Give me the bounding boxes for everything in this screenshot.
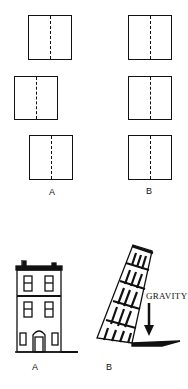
box-b1 bbox=[128, 15, 172, 60]
box-a2 bbox=[14, 76, 58, 120]
building-icon bbox=[10, 258, 80, 358]
fold-line bbox=[150, 16, 151, 59]
box-a1 bbox=[28, 15, 72, 60]
fold-line bbox=[36, 77, 37, 119]
label-a-bottom: A bbox=[32, 362, 38, 372]
fold-line bbox=[51, 136, 52, 179]
fold-line bbox=[150, 77, 151, 119]
fold-line bbox=[150, 136, 151, 179]
label-b-top: B bbox=[146, 186, 152, 196]
box-b3 bbox=[128, 135, 172, 180]
gravity-arrow-icon bbox=[142, 303, 156, 337]
gravity-label: GRAVITY bbox=[146, 291, 187, 301]
box-a3 bbox=[29, 135, 73, 180]
label-a-top: A bbox=[49, 187, 55, 197]
box-b2 bbox=[128, 76, 172, 120]
label-b-bottom: B bbox=[106, 362, 112, 372]
fold-line bbox=[50, 16, 51, 59]
